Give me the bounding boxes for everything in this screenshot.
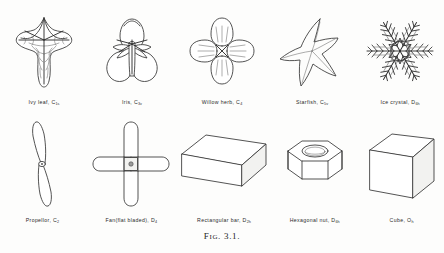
specimen-label-name: Hexagonal nut,	[290, 217, 330, 223]
specimen-caption: Ice crystal, D6h	[380, 100, 419, 106]
specimen-label-name: Ice crystal,	[380, 99, 409, 105]
specimen-caption: Fan(flat bladed), D4	[105, 218, 157, 224]
figure-plate: Ivy leaf, C1s	[0, 0, 444, 253]
figure-caption-number: . 3.1.	[218, 231, 240, 241]
snowflake-drawing	[365, 4, 435, 98]
figure-caption-ig: IG	[209, 233, 218, 241]
specimen-willow-herb: Willow herb, C4	[176, 4, 268, 106]
specimen-label-subscript: 3v	[138, 101, 142, 105]
specimen-label-name: Starfish,	[296, 99, 318, 105]
specimen-label-subscript: 1s	[56, 101, 60, 105]
specimen-label-name: Propellor,	[26, 217, 51, 223]
specimen-caption: Cube, Oh	[390, 218, 414, 224]
figure-caption: FIG. 3.1.	[0, 231, 444, 241]
specimen-label-subscript: 4	[240, 101, 242, 105]
specimen-row-manmade: Propellor, C2	[0, 112, 444, 224]
specimen-label-name: Rectangular bar,	[197, 217, 241, 223]
specimen-caption: Propellor, C2	[26, 218, 59, 224]
specimen-row-organic: Ivy leaf, C1s	[0, 4, 444, 106]
specimen-label-name: Fan(flat bladed),	[105, 217, 149, 223]
willow-herb-flower-drawing	[188, 4, 256, 98]
rectangular-bar-drawing	[179, 112, 269, 216]
specimen-caption: Ivy leaf, C1s	[29, 100, 60, 106]
ivy-leaf-drawing	[12, 4, 76, 98]
specimen-label-subscript: 6h	[415, 101, 419, 105]
specimen-label-name: Willow herb,	[202, 99, 234, 105]
specimen-label-subscript: 5v	[324, 101, 328, 105]
specimen-caption: Starfish, C5v	[296, 100, 328, 106]
specimen-label-name: Ivy leaf,	[29, 99, 50, 105]
specimen-iris: Iris, C3v	[88, 4, 176, 106]
specimen-caption: Willow herb, C4	[202, 100, 242, 106]
specimen-hexagonal-nut: Hexagonal nut, D6h	[270, 112, 359, 224]
specimen-label-subscript: 2	[57, 219, 59, 223]
specimen-rectangular-bar: Rectangular bar, D2h	[178, 112, 271, 224]
cube-drawing	[366, 112, 438, 216]
specimen-label-subscript: 6h	[335, 219, 339, 223]
specimen-starfish: Starfish, C5v	[268, 4, 356, 106]
specimen-fan: Fan(flat bladed), D4	[85, 112, 178, 224]
specimen-label-name: Cube,	[390, 217, 406, 223]
specimen-label-subscript: 2h	[247, 219, 251, 223]
starfish-drawing	[279, 4, 345, 98]
specimen-label-name: Iris,	[122, 99, 132, 105]
specimen-ice-crystal: Ice crystal, D6h	[356, 4, 444, 106]
four-bladed-fan-drawing	[91, 112, 171, 216]
specimen-label-subscript: h	[411, 219, 413, 223]
specimen-propellor: Propellor, C2	[0, 112, 85, 224]
iris-flower-drawing	[100, 4, 164, 98]
specimen-caption: Iris, C3v	[122, 100, 142, 106]
specimen-label-subscript: 4	[155, 219, 157, 223]
propellor-drawing	[11, 112, 73, 216]
hexagonal-nut-drawing	[282, 112, 348, 216]
specimen-caption: Rectangular bar, D2h	[197, 218, 251, 224]
specimen-caption: Hexagonal nut, D6h	[290, 218, 340, 224]
specimen-cube: Cube, Oh	[359, 112, 444, 224]
specimen-ivy-leaf: Ivy leaf, C1s	[0, 4, 88, 106]
